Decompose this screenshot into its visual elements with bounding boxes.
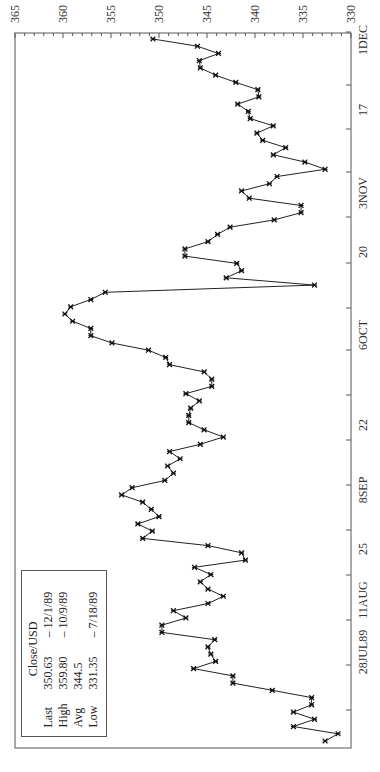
legend-row-avg: Avg 344.5 — [71, 572, 86, 735]
svg-text:345: 345 — [200, 5, 214, 23]
legend-box: Close/USD Last 350.63 – 12/1/89 High 359… — [21, 570, 107, 737]
svg-text:11AUG: 11AUG — [356, 581, 370, 619]
svg-text:17: 17 — [356, 104, 370, 116]
svg-text:8SEP: 8SEP — [356, 476, 370, 503]
svg-text:365: 365 — [8, 5, 22, 23]
svg-text:25: 25 — [356, 543, 370, 555]
legend-row-high: High 359.80 – 10/9/89 — [56, 572, 71, 735]
svg-text:360: 360 — [56, 5, 70, 23]
svg-text:20: 20 — [356, 246, 370, 258]
svg-text:1DEC: 1DEC — [356, 25, 370, 55]
svg-text:330: 330 — [344, 5, 358, 23]
svg-text:335: 335 — [296, 5, 310, 23]
svg-text:350: 350 — [152, 5, 166, 23]
svg-text:22: 22 — [356, 419, 370, 431]
legend-row-last: Last 350.63 – 12/1/89 — [41, 572, 56, 735]
svg-text:28JUL89: 28JUL89 — [356, 630, 370, 675]
svg-text:6OCT: 6OCT — [356, 319, 370, 350]
legend-row-low: Low 331.35 – 7/18/89 — [86, 572, 101, 735]
svg-text:3NOV: 3NOV — [356, 177, 370, 209]
legend-title: Close/USD — [26, 572, 41, 735]
svg-text:340: 340 — [248, 5, 262, 23]
svg-text:355: 355 — [104, 5, 118, 23]
